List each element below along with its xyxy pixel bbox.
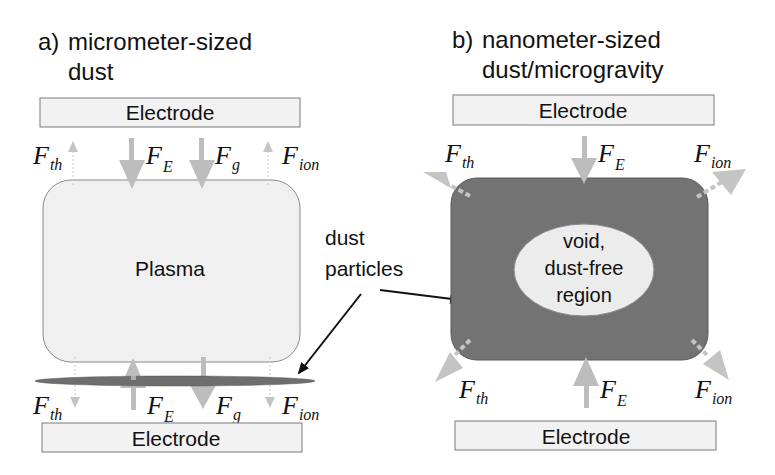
panel-b-bottom-electrode-label: Electrode — [542, 425, 631, 448]
panel-a-bottom-electrode-label: Electrode — [132, 427, 221, 450]
arrowhead-down-icon — [70, 397, 80, 408]
panel-a: a) micrometer-sized dust Electrode Plasm… — [32, 28, 319, 452]
panel-a-dust-layer — [35, 376, 315, 386]
electric-force-arrow-icon — [129, 138, 134, 162]
force-label-fion: Fion — [693, 139, 731, 171]
arrowhead-down-icon — [190, 385, 216, 409]
force-label-fg: Fg — [214, 141, 240, 174]
force-label-fion: Fion — [281, 141, 319, 173]
panel-a-plasma-label: Plasma — [135, 257, 205, 280]
void-label-line1: void, — [563, 230, 605, 252]
panel-a-label: a) — [38, 28, 59, 55]
dust-particles-callout: dust particles — [299, 226, 460, 373]
arrowhead-up-right-icon — [712, 169, 746, 195]
arrowhead-up-icon — [263, 141, 273, 152]
force-label-fion: Fion — [281, 391, 319, 423]
panel-a-bottom-force-labels: Fth FE Fg Fion — [32, 391, 319, 425]
callout-arrow-to-dust-layer-icon — [299, 294, 361, 373]
arrowhead-down-icon — [265, 397, 275, 408]
force-label-fe: FE — [145, 141, 173, 175]
panel-b-top-electrode-label: Electrode — [539, 99, 628, 122]
force-label-fth: Fth — [458, 375, 488, 407]
panel-b: b) nanometer-sized dust/microgravity Ele… — [423, 26, 746, 450]
callout-arrow-to-dust-cloud-icon — [380, 290, 460, 300]
arrowhead-up-icon — [68, 141, 78, 152]
electric-force-arrow-icon — [582, 136, 587, 160]
panel-b-title-line2: dust/microgravity — [482, 56, 663, 83]
force-label-fe: FE — [599, 375, 627, 409]
void-label-line2: dust-free — [545, 257, 624, 279]
panel-a-top-electrode-label: Electrode — [126, 101, 215, 124]
arrowhead-up-icon — [573, 357, 599, 386]
callout-line1: dust — [325, 226, 365, 249]
electric-force-arrow-overlap — [131, 372, 136, 380]
void-label-line3: region — [556, 284, 612, 306]
gravity-force-arrow-icon — [199, 138, 204, 162]
callout-line2: particles — [325, 257, 403, 280]
panel-a-title-line1: micrometer-sized — [68, 28, 252, 55]
panel-b-label: b) — [452, 26, 473, 53]
force-label-fion: Fion — [694, 375, 732, 407]
panel-a-title-line2: dust — [68, 58, 114, 85]
force-label-fg: Fg — [215, 391, 241, 424]
force-label-fe: FE — [146, 391, 174, 425]
force-label-fth: Fth — [32, 141, 62, 173]
force-label-fe: FE — [597, 139, 625, 173]
dusty-plasma-diagram: a) micrometer-sized dust Electrode Plasm… — [0, 0, 775, 475]
force-label-fth: Fth — [444, 139, 474, 171]
panel-b-title-line1: nanometer-sized — [482, 26, 661, 53]
force-label-fth: Fth — [32, 391, 62, 423]
